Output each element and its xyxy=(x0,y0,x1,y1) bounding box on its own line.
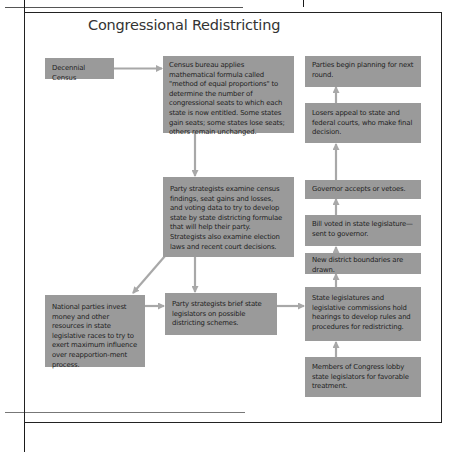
node-national-parties: National parties invest money and other … xyxy=(45,295,145,367)
node-new-district: New district boundaries are drawn. xyxy=(305,253,421,274)
node-parties-begin: Parties begin planning for next round. xyxy=(305,56,421,87)
node-decennial-census: Decennial Census xyxy=(45,58,114,79)
node-party-strategists-examine: Party strategists examine census finding… xyxy=(163,177,294,257)
node-census-bureau: Census bureau applies mathematical formu… xyxy=(163,56,294,133)
node-bill-voted: Bill voted in state legislature—sent to … xyxy=(305,215,421,246)
node-members-of-congress: Members of Congress lobby state legislat… xyxy=(305,357,421,397)
node-state-legislatures: State legislatures and legislative commi… xyxy=(305,287,421,341)
node-governor: Governor accepts or vetoes. xyxy=(305,180,421,199)
node-losers-appeal: Losers appeal to state and federal court… xyxy=(305,103,421,143)
node-party-strategists-brief: Party strategists brief state legislator… xyxy=(165,293,277,335)
